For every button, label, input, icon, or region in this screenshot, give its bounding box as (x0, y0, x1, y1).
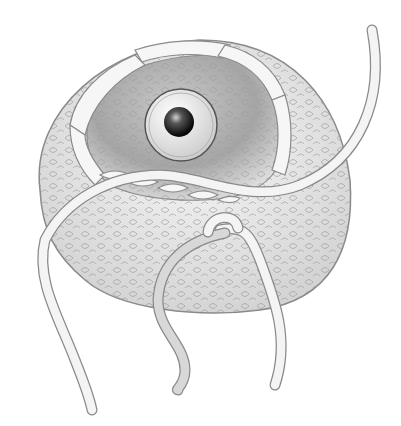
safety-eye (145, 89, 217, 161)
illustration-canvas (0, 0, 401, 426)
crochet-eye-illustration (0, 0, 401, 426)
pupil (164, 107, 194, 137)
